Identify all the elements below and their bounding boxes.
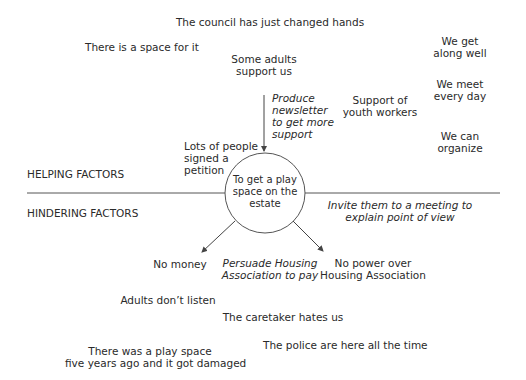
factor-line: No money [145, 258, 215, 270]
factor-petition: Lots of people signed a petition [184, 140, 258, 176]
factor-organize: We can organize [430, 130, 490, 154]
factor-caretaker: The caretaker hates us [218, 311, 348, 323]
action-line: Invite them to a meeting to [325, 199, 475, 211]
action-line: Produce [272, 92, 334, 104]
action-line: newsletter [272, 104, 334, 116]
factor-line: We get [430, 35, 490, 47]
factor-line: We can [430, 130, 490, 142]
action-line: Persuade Housing [215, 257, 325, 269]
factor-get-along: We get along well [430, 35, 490, 59]
action-line: to get more [272, 116, 334, 128]
action-line: Association to pay [215, 269, 325, 281]
factor-space: There is a space for it [85, 41, 195, 53]
factor-line: Adults don’t listen [118, 294, 218, 306]
factor-line: The caretaker hates us [218, 311, 348, 323]
action-line: explain point of view [325, 211, 475, 223]
factor-line: Lots of people [184, 140, 258, 152]
goal-text: To get a play space on the estate [226, 174, 304, 210]
factor-line: youth workers [335, 106, 425, 118]
action-newsletter: Produce newsletter to get more support [272, 92, 334, 140]
factor-line: No power over [318, 257, 428, 269]
factor-no-money: No money [145, 258, 215, 270]
factor-council: The council has just changed hands [160, 16, 380, 28]
factor-line: The council has just changed hands [160, 16, 380, 28]
goal-line: estate [226, 198, 304, 210]
factor-line: petition [184, 164, 258, 176]
factor-line: support us [228, 65, 300, 77]
arrow-goal-to-no-power [293, 221, 323, 251]
factor-line: There was a play space [65, 345, 235, 357]
goal-line: space on the [226, 186, 304, 198]
arrow-goal-to-no-money [202, 221, 235, 252]
factor-line: along well [430, 47, 490, 59]
factor-line: The police are here all the time [263, 339, 413, 351]
hindering-factors-label: HINDERING FACTORS [27, 207, 138, 219]
factor-line: There is a space for it [85, 41, 195, 53]
action-line: support [272, 128, 334, 140]
factor-line: organize [430, 142, 490, 154]
helping-factors-label: HELPING FACTORS [27, 168, 124, 180]
action-invite: Invite them to a meeting to explain poin… [325, 199, 475, 223]
factor-adults-support: Some adults support us [228, 53, 300, 77]
factor-police: The police are here all the time [263, 339, 413, 351]
factor-line: five years ago and it got damaged [65, 357, 235, 369]
factor-meet: We meet every day [430, 78, 490, 102]
factor-line: Support of [335, 94, 425, 106]
factor-no-power: No power over Housing Association [318, 257, 428, 281]
factor-line: We meet [430, 78, 490, 90]
factor-adults-dont-listen: Adults don’t listen [118, 294, 218, 306]
factor-play-space-damaged: There was a play space five years ago an… [65, 345, 235, 369]
factor-line: Some adults [228, 53, 300, 65]
factor-line: signed a [184, 152, 258, 164]
factor-line: every day [430, 90, 490, 102]
factor-line: Housing Association [318, 269, 428, 281]
action-persuade: Persuade Housing Association to pay [215, 257, 325, 281]
factor-youth-workers: Support of youth workers [335, 94, 425, 118]
